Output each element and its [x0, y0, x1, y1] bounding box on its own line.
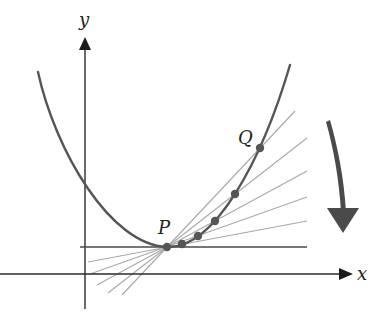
- secant-line-2: [108, 138, 307, 293]
- label-q: Q: [238, 127, 253, 148]
- label-p: P: [157, 217, 171, 238]
- point-q2: [231, 190, 239, 198]
- secant-tangent-diagram: x y P Q: [0, 0, 382, 334]
- point-q: [256, 144, 264, 152]
- point-q5: [178, 240, 186, 248]
- y-axis-arrowhead-icon: [79, 37, 91, 50]
- point-q4: [194, 232, 202, 240]
- secant-line-q: [122, 111, 295, 295]
- x-axis-label: x: [357, 263, 367, 284]
- secant-line-3: [97, 171, 307, 285]
- secant-lines: [88, 111, 307, 295]
- y-axis: y: [78, 9, 91, 309]
- y-axis-label: y: [78, 9, 90, 30]
- x-axis-arrowhead-icon: [339, 268, 353, 280]
- point-q3: [211, 217, 219, 225]
- downward-arrow-icon: [326, 120, 359, 233]
- x-axis: x: [0, 263, 367, 284]
- point-p: [163, 243, 171, 251]
